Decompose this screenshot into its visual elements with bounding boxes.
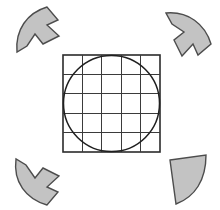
figure-canvas [0,0,220,210]
geometry-figure [0,0,220,210]
